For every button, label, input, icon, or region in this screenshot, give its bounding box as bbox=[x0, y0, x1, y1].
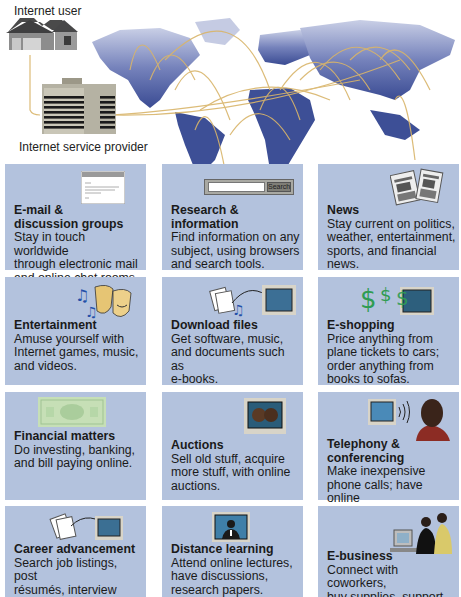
panel-description: buy supplies, support bbox=[327, 591, 456, 597]
panel-description: Do investing, banking, bbox=[14, 444, 143, 458]
panel-title: E-shopping bbox=[327, 319, 456, 333]
panel-description: Stay in touch worldwide bbox=[14, 231, 143, 258]
svg-text:$: $ bbox=[396, 286, 409, 310]
panel-description: subject, using browsers bbox=[171, 245, 300, 259]
panel-description: Internet games, music, bbox=[14, 346, 143, 360]
panel-description: Amuse yourself with bbox=[14, 333, 143, 347]
panel-eshopping: $ $ $ E-shopping Price anything from pla… bbox=[318, 277, 459, 385]
panel-description: résumés, interview bbox=[14, 584, 143, 597]
house-icon bbox=[6, 18, 78, 50]
phone-person-icon bbox=[368, 395, 458, 441]
panel-entertainment: ♫ ♫ Entertainment Amuse yourself with In… bbox=[5, 277, 146, 385]
download-files-icon: ♫ bbox=[208, 281, 298, 323]
panel-description: research papers. bbox=[171, 584, 300, 597]
email-window-icon bbox=[81, 171, 125, 204]
dollar-signs-icon: $ $ $ bbox=[360, 281, 440, 317]
panel-description: Get software, music, bbox=[171, 333, 300, 347]
panel-description: Stay current on politics, bbox=[327, 218, 456, 232]
panel-news: News Stay current on politics, weather, … bbox=[318, 164, 459, 270]
isp-building-icon bbox=[42, 78, 116, 134]
panel-description: and videos. bbox=[14, 360, 143, 374]
svg-text:$: $ bbox=[380, 284, 391, 305]
theater-masks-icon: ♫ ♫ bbox=[73, 281, 135, 323]
panel-research: Search Research & information Find infor… bbox=[162, 164, 303, 270]
internet-overview-illustration: Internet user Internet service provider bbox=[0, 0, 461, 170]
search-box-icon: Search bbox=[204, 179, 294, 195]
panel-description: and documents such as bbox=[171, 346, 300, 373]
newspaper-icon bbox=[390, 168, 446, 206]
panel-description: and search tools. bbox=[171, 258, 300, 272]
panel-title: Auctions bbox=[171, 439, 300, 453]
panel-description: Price anything from bbox=[327, 333, 456, 347]
panel-description: and bill paying online. bbox=[14, 457, 143, 471]
panel-title: Distance learning bbox=[171, 543, 300, 557]
dollar-bill-icon bbox=[38, 397, 106, 427]
panel-description: books to sofas. bbox=[327, 373, 456, 387]
panel-description: weather, entertainment, bbox=[327, 231, 456, 245]
panel-telephony: Telephony & conferencing Make inexpensiv… bbox=[318, 392, 459, 500]
coins-on-screen-icon bbox=[244, 398, 286, 434]
svg-text:♫: ♫ bbox=[232, 302, 245, 318]
lecturer-screen-icon bbox=[212, 512, 250, 542]
panel-career: Career advancement Search job listings, … bbox=[5, 506, 146, 597]
panel-description: through electronic mail bbox=[14, 258, 143, 272]
panel-description: phone calls; have online bbox=[327, 479, 456, 506]
panel-title: Entertainment bbox=[14, 319, 143, 333]
panel-description: plane tickets to cars; bbox=[327, 346, 456, 360]
panel-description: Make inexpensive bbox=[327, 465, 456, 479]
panel-description: e-books. bbox=[171, 373, 300, 387]
panel-description: Sell old stuff, acquire bbox=[171, 453, 300, 467]
panel-description: Search job listings, post bbox=[14, 557, 143, 584]
panel-ebusiness: E-business Connect with coworkers, buy s… bbox=[318, 506, 459, 597]
panel-description: order anything from bbox=[327, 360, 456, 374]
internet-user-label: Internet user bbox=[14, 4, 81, 18]
svg-text:♫: ♫ bbox=[75, 286, 89, 305]
panel-title: Research & bbox=[171, 204, 300, 218]
panel-description: have discussions, bbox=[171, 570, 300, 584]
panel-title: Telephony & bbox=[327, 438, 456, 452]
panel-distance-learning: Distance learning Attend online lectures… bbox=[162, 506, 303, 597]
panel-title: News bbox=[327, 204, 456, 218]
panel-title: conferencing bbox=[327, 452, 456, 466]
panel-email: E-mail & discussion groups Stay in touch… bbox=[5, 164, 146, 270]
panel-title: E-mail & bbox=[14, 204, 143, 218]
panel-title: Financial matters bbox=[14, 430, 143, 444]
panel-description: Find information on any bbox=[171, 231, 300, 245]
panel-title: Download files bbox=[171, 319, 300, 333]
resume-upload-icon bbox=[49, 510, 125, 546]
panel-description: more stuff, with online bbox=[171, 466, 300, 480]
svg-text:$: $ bbox=[360, 284, 377, 314]
panel-title: E-business bbox=[327, 550, 456, 564]
panel-description: Attend online lectures, bbox=[171, 557, 300, 571]
panel-download: ♫ Download files Get software, music, an… bbox=[162, 277, 303, 385]
isp-label: Internet service provider bbox=[19, 140, 148, 154]
panel-description: auctions. bbox=[171, 480, 300, 494]
panel-financial: Financial matters Do investing, banking,… bbox=[5, 392, 146, 500]
panel-description: Connect with coworkers, bbox=[327, 564, 456, 591]
panel-description: news. bbox=[327, 258, 456, 272]
panel-auctions: Auctions Sell old stuff, acquire more st… bbox=[162, 392, 303, 500]
panel-title: information bbox=[171, 218, 300, 232]
search-button-glyph: Search bbox=[267, 182, 291, 192]
panel-description: sports, and financial bbox=[327, 245, 456, 259]
coworkers-computer-icon bbox=[390, 510, 456, 554]
panel-title: Career advancement bbox=[14, 543, 143, 557]
panel-title: discussion groups bbox=[14, 218, 143, 232]
